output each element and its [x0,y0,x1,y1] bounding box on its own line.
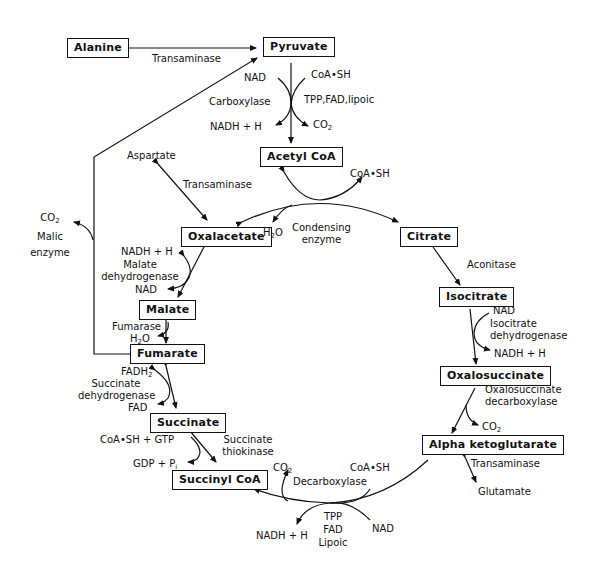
text-line: enzyme [30,245,70,261]
text-line: Succinate [218,434,278,446]
text-line: thiokinase [218,446,278,458]
label-akdh-cofactors: TPPFADLipoic [318,510,348,549]
compound-pyruvate: Pyruvate [263,37,335,57]
text-line: dehydrogenase [490,330,567,342]
label-pdh-cofactors: TPP,FAD,lipoic [304,94,374,106]
label-stk-gdp: GDP + Pi [133,458,177,473]
label-osd: Oxalosuccinatedecarboxylase [485,384,562,408]
gdp-text: GDP + P [133,458,175,469]
text-line: Malate [101,259,179,271]
compound-malate: Malate [139,300,196,320]
label-akdh-coash: CoA•SH [350,462,390,474]
subscript: 2 [271,232,275,240]
compound-succinate: Succinate [150,413,226,433]
label-akdh-nadh: NADH + H [256,530,308,542]
label-pdh-nadh: NADH + H [210,121,262,133]
compound-isocitrate: Isocitrate [439,287,514,307]
subscript: 2 [288,467,292,475]
label-mdh-nad: NAD [135,284,157,296]
label-akdh-decarboxylase: Decarboxylase [293,476,367,488]
text-line: dehydrogenase [101,271,179,283]
label-akdh-nad: NAD [372,523,394,535]
compound-citrate: Citrate [400,227,458,247]
label-condensing-enzyme: Condensingenzyme [292,222,351,246]
co2-text: CO [482,421,497,432]
compound-alanine: Alanine [67,38,129,58]
fadh-text: FADH [121,366,148,377]
label-aspartate: Aspartate [127,150,176,162]
co2-text: CO [40,212,55,223]
subscript: 2 [497,426,501,434]
compound-oxalosuccinate: Oxalosuccinate [440,366,551,386]
label-akdh-co2: CO2 [273,462,292,477]
label-fumarase: Fumarase [112,321,161,333]
label-malic-enzyme: CO2Malicenzyme [30,210,70,261]
co2-text: CO [313,119,328,130]
text-line: Succinate [78,378,154,390]
label-pdh-coash: CoA•SH [311,69,351,81]
label-transaminase-alanine: Transaminase [152,53,221,65]
text-line: Lipoic [318,536,348,549]
text-line: Isocitrate [490,318,567,330]
text-line: FAD [318,523,348,536]
label-succinate-thiokinase: Succinatethiokinase [218,434,278,458]
text-line: dehydrogenase [78,390,154,402]
label-cs-h2o: H2O [263,227,283,242]
text-line: Malic [30,229,70,245]
subscript: 2 [328,124,332,132]
subscript: i [175,463,177,471]
label-glutamate: Glutamate [478,486,531,498]
compound-acetyl-coa: Acetyl CoA [260,147,343,167]
text-line: enzyme [292,234,351,246]
label-stk-coash-gtp: CoA•SH + GTP [100,434,174,446]
subscript: 2 [138,338,142,346]
h-text: H [263,227,271,238]
label-mdh: Malatedehydrogenase [101,259,179,283]
label-osd-co2: CO2 [482,421,501,436]
label-transaminase-aspartate: Transaminase [183,179,252,191]
compound-succinyl-coa: Succinyl CoA [172,470,268,490]
co2-text: CO [273,462,288,473]
label-pdh-nad: NAD [244,72,266,84]
label-sdh: Succinatedehydrogenase [78,378,154,402]
label-idh-nadh: NADH + H [494,348,546,360]
label-pdh-carboxylase: Carboxylase [209,96,270,108]
subscript: 2 [55,217,59,225]
label-cs-coash: CoA•SH [350,168,390,180]
label-transaminase-glutamate: Transaminase [471,458,540,470]
label-pdh-co2: CO2 [313,119,332,134]
label-idh-nad: NAD [493,305,515,317]
text-line: decarboxylase [485,396,562,408]
label-idh: Isocitratedehydrogenase [490,318,567,342]
compound-oxalacetate: Oxalacetate [181,227,272,247]
compound-alpha-ketoglutarate: Alpha ketoglutarate [422,435,564,455]
text-line: TPP [318,510,348,523]
label-sdh-fad: FAD [128,402,147,414]
h-text: H [130,333,138,344]
label-aconitase: Aconitase [467,259,516,271]
label-mdh-nadh: NADH + H [121,246,173,258]
label-fum-h2o: H2O [130,333,150,348]
text-line: Oxalosuccinate [485,384,562,396]
text-line: Condensing [292,222,351,234]
